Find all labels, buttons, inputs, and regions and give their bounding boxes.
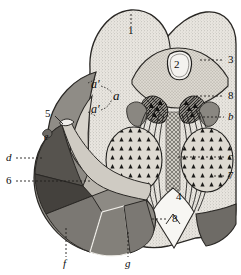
label-b-text: b	[228, 110, 234, 122]
label-a: a	[113, 89, 120, 102]
label-f-text: f	[63, 257, 66, 269]
label-4-text: 4	[176, 190, 182, 202]
anatomical-figure: 1 2 3 8 b c 7 4 8 5 d 6 e f g a a′ a′	[0, 0, 241, 275]
label-8-upper: 8	[228, 90, 234, 101]
label-8-lower: 8	[172, 213, 178, 224]
label-e: e	[44, 132, 48, 142]
raphe-column	[166, 112, 180, 200]
label-3: 3	[228, 54, 234, 65]
label-6: 6	[6, 175, 12, 186]
label-1-text: 1	[128, 24, 134, 36]
label-d-text: d	[6, 151, 12, 163]
label-1: 1	[128, 25, 134, 36]
label-a-prime: a′	[91, 78, 100, 90]
label-4: 4	[176, 191, 182, 202]
inner-oval-canal	[167, 51, 191, 80]
label-a-double-prime-text: a′	[91, 102, 100, 116]
label-c-text: c	[228, 150, 233, 162]
label-3-text: 3	[228, 53, 234, 65]
label-d: d	[6, 152, 12, 163]
label-2: 2	[174, 59, 180, 70]
label-f: f	[63, 258, 66, 269]
label-a-text: a	[113, 88, 120, 103]
label-6-text: 6	[6, 174, 12, 186]
label-8-upper-text: 8	[228, 89, 234, 101]
label-7-text: 7	[228, 169, 234, 181]
label-7: 7	[228, 170, 234, 181]
label-8-lower-text: 8	[172, 212, 178, 224]
label-a-prime-text: a′	[91, 77, 100, 91]
nucleus-right	[181, 128, 233, 192]
label-e-text: e	[44, 131, 48, 142]
label-g-text: g	[125, 257, 131, 269]
figure-canvas	[0, 0, 241, 275]
label-5: 5	[45, 108, 51, 119]
label-5-text: 5	[45, 107, 51, 119]
label-g: g	[125, 258, 131, 269]
label-c: c	[228, 151, 233, 162]
label-2-text: 2	[174, 58, 180, 70]
label-a-double-prime: a′	[91, 103, 100, 115]
label-b: b	[228, 111, 234, 122]
